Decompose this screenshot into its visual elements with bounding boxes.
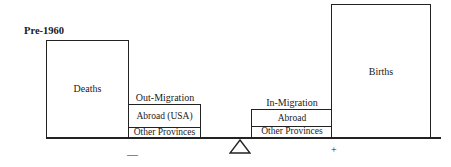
in-migration-abroad: Abroad [252,113,332,123]
births-box: Births [331,4,431,138]
deaths-box: Deaths [46,40,129,139]
in-migration-label: In-Migration [251,97,333,108]
in-migration-other-provinces: Other Provinces [252,126,332,136]
out-migration-box: Abroad (USA) Other Provinces [128,104,201,139]
deaths-label: Deaths [47,83,128,94]
out-migration-other-provinces: Other Provinces [129,127,200,137]
out-migration-label: Out-Migration [129,92,201,103]
plus-sign: + [331,144,337,155]
minus-sign: — [127,148,138,160]
triangle-fulcrum-icon [229,139,251,154]
births-label: Births [332,66,430,77]
in-migration-box: Abroad Other Provinces [251,109,333,138]
out-migration-abroad: Abroad (USA) [129,111,200,121]
diagram-title: Pre-1960 [24,25,64,36]
